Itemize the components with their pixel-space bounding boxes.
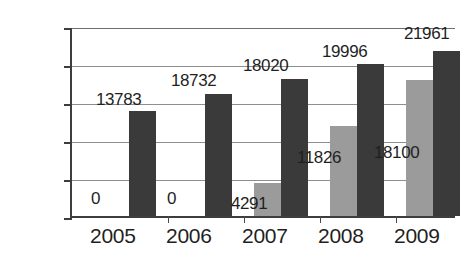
y-axis-tick: [64, 218, 72, 220]
data-label-2009-series-1: 18100: [374, 143, 419, 163]
y-axis-tick: [64, 142, 72, 144]
category-separator: [168, 216, 169, 223]
y-axis-tick: [64, 28, 72, 30]
bar-2006-series-2[interactable]: [205, 94, 232, 216]
bar-2008-series-2[interactable]: [357, 64, 384, 216]
category-separator: [320, 216, 321, 223]
bar-2008-series-1[interactable]: [330, 126, 357, 216]
data-label-2008-series-2: 19996: [322, 42, 367, 62]
bar-chart: 0 5000 10000 15000 20000 25000: [0, 0, 473, 265]
y-axis-tick: [64, 104, 72, 106]
bar-group-2009: [400, 28, 466, 216]
y-axis-tick: [64, 180, 72, 182]
x-axis-label-2006: 2006: [166, 224, 212, 248]
bar-2005-series-2[interactable]: [129, 111, 156, 216]
bar-group-2006: [172, 28, 238, 216]
bar-2009-series-2[interactable]: [433, 51, 460, 216]
data-label-2007-series-2: 18020: [243, 56, 288, 76]
data-label-2009-series-2: 21961: [404, 24, 449, 44]
data-label-2005-series-1: 0: [91, 189, 100, 209]
x-axis-label-2009: 2009: [394, 224, 440, 248]
data-label-2006-series-1: 0: [167, 189, 176, 209]
data-label-2006-series-2: 18732: [171, 71, 216, 91]
data-label-2007-series-1: 4291: [231, 194, 267, 214]
category-separator: [396, 216, 397, 223]
category-separator: [244, 216, 245, 223]
x-axis-label-2008: 2008: [318, 224, 364, 248]
data-label-2008-series-1: 11826: [297, 148, 341, 168]
y-axis-tick: [64, 66, 72, 68]
bar-group-2005: [96, 28, 162, 216]
x-axis-label-2005: 2005: [90, 224, 136, 248]
data-label-2005-series-2: 13783: [96, 90, 141, 110]
x-axis-label-2007: 2007: [242, 224, 288, 248]
